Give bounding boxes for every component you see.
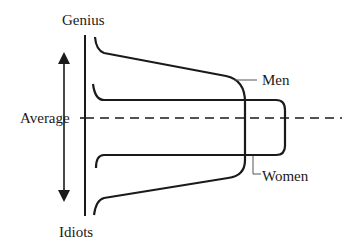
women-distribution-curve [93, 84, 285, 168]
men-distribution-curve [94, 37, 245, 215]
label-men: Men [262, 72, 290, 88]
label-genius: Genius [62, 12, 105, 28]
women-leader-line [253, 156, 261, 174]
distribution-diagram: Genius Idiots Average Men Women [0, 0, 357, 250]
label-idiots: Idiots [59, 224, 93, 240]
label-women: Women [262, 168, 309, 184]
double-arrow-icon [58, 52, 70, 202]
label-average: Average [20, 110, 70, 126]
